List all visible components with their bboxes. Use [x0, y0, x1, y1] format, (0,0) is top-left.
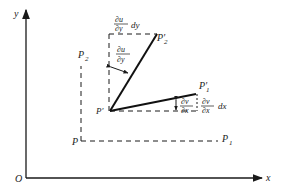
svg-text:∂y: ∂y — [115, 24, 123, 33]
svg-text:dx: dx — [218, 101, 227, 111]
angle-du-dy-arrow — [111, 67, 128, 73]
svg-text:P: P — [71, 136, 78, 147]
point-P-prime: P′ — [95, 106, 104, 116]
svg-text:dy: dy — [131, 20, 140, 30]
svg-text:∂v: ∂v — [181, 97, 189, 106]
x-axis-label: x — [265, 172, 271, 183]
annotation-dv-dx-angle: ∂v ∂x — [180, 97, 193, 115]
strain-diagram: y x O P P 1 P 2 P′ P′ 1 P′ 2 ∂u ∂y dy ∂u… — [0, 0, 288, 189]
svg-text:1: 1 — [229, 139, 233, 147]
svg-text:∂v: ∂v — [202, 97, 210, 106]
svg-text:∂x: ∂x — [181, 106, 189, 115]
svg-text:∂u: ∂u — [117, 45, 125, 54]
point-P1-prime: P′ 1 — [198, 80, 210, 94]
svg-text:1: 1 — [206, 86, 210, 94]
svg-text:P: P — [77, 49, 84, 60]
annotation-du-dy-dy: ∂u ∂y dy — [114, 15, 140, 33]
svg-text:P′: P′ — [95, 106, 104, 116]
svg-text:2: 2 — [164, 38, 168, 46]
point-P2: P 2 — [77, 49, 89, 63]
svg-text:∂x: ∂x — [202, 106, 210, 115]
svg-text:P: P — [221, 133, 228, 144]
point-P1: P 1 — [221, 133, 233, 147]
annotation-du-dy-angle: ∂u ∂y — [116, 45, 130, 64]
svg-text:∂u: ∂u — [115, 15, 123, 24]
svg-text:2: 2 — [85, 55, 89, 63]
svg-text:∂y: ∂y — [117, 55, 125, 64]
origin-label: O — [15, 173, 22, 184]
y-axis-label: y — [13, 8, 19, 19]
point-P2-prime: P′ 2 — [156, 32, 168, 46]
point-P: P — [71, 136, 78, 147]
annotation-dv-dx-dx: ∂v ∂x dx — [201, 97, 227, 115]
